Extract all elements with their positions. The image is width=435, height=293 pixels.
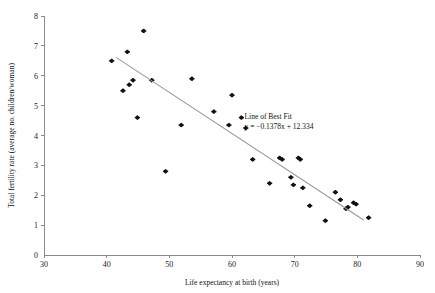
y-axis-tick-label: 5	[34, 102, 38, 111]
y-axis-tick-label: 3	[34, 161, 38, 170]
data-point	[141, 29, 146, 33]
axis-titles: Life expectancy at birth (years)Total fe…	[7, 63, 280, 287]
data-point	[179, 123, 184, 127]
data-point	[211, 110, 216, 114]
data-point-vbar	[302, 186, 304, 190]
data-point	[163, 169, 168, 173]
data-point-vbar	[355, 202, 357, 206]
data-point	[366, 216, 371, 220]
trendline-equation: y = −0.1378x + 12.334	[245, 122, 314, 131]
data-point-vbar	[309, 204, 311, 208]
x-axis-tick-label: 60	[228, 260, 236, 269]
data-point-vbar	[281, 157, 283, 161]
data-point-vbar	[111, 59, 113, 63]
data-point	[229, 93, 234, 97]
data-point-vbar	[213, 110, 215, 114]
data-point	[127, 83, 132, 87]
data-point-vbar	[180, 123, 182, 127]
data-point-vbar	[290, 175, 292, 179]
data-point-vbar	[293, 183, 295, 187]
x-axis-tick-label: 30	[40, 260, 48, 269]
data-point-vbar	[132, 78, 134, 82]
scatter-plot-figure: 12345678 030405060708090 Line of Best Fi…	[0, 0, 435, 293]
data-point	[307, 204, 312, 208]
data-point-vbar	[347, 205, 349, 209]
data-point	[135, 115, 140, 119]
data-point-vbar	[122, 89, 124, 93]
data-point-vbar	[165, 169, 167, 173]
data-point	[125, 50, 130, 54]
y-axis-tick-label: 7	[34, 42, 38, 51]
data-point	[338, 198, 343, 202]
chart-canvas: 12345678 030405060708090 Line of Best Fi…	[0, 0, 435, 293]
data-point-vbar	[340, 198, 342, 202]
x-axis-tick-label: 70	[291, 260, 299, 269]
data-point-vbar	[128, 83, 130, 87]
data-point	[226, 123, 231, 127]
data-point	[288, 175, 293, 179]
data-point-vbar	[231, 93, 233, 97]
line-of-best-fit	[116, 57, 364, 220]
data-point	[250, 157, 255, 161]
y-axis: 12345678	[34, 12, 44, 255]
trendline-label: Line of Best Fit	[245, 112, 293, 121]
y-axis-tick-label: 8	[34, 12, 38, 21]
data-point-vbar	[325, 219, 327, 223]
x-axis-tick-label: 50	[165, 260, 173, 269]
data-point	[239, 115, 244, 119]
data-point-vbar	[269, 181, 271, 185]
data-point	[300, 186, 305, 190]
data-point	[333, 190, 338, 194]
data-point-vbar	[127, 50, 129, 54]
y-axis-tick-label: 1	[34, 221, 38, 230]
data-point-vbar	[143, 29, 145, 33]
data-point-vbar	[228, 123, 230, 127]
x-axis-title: Life expectancy at birth (years)	[185, 278, 280, 287]
y-axis-tick-label: 2	[34, 191, 38, 200]
x-axis-tick-label: 40	[103, 260, 111, 269]
data-points-layer	[109, 29, 371, 223]
data-point-vbar	[368, 216, 370, 220]
data-point	[291, 183, 296, 187]
x-axis-tick-label: 80	[353, 260, 361, 269]
y-axis-origin-label: 0	[34, 251, 38, 260]
y-axis-title: Total fertility rate (average no. childr…	[7, 63, 16, 208]
data-point-vbar	[252, 157, 254, 161]
data-point-vbar	[335, 190, 337, 194]
y-axis-tick-label: 6	[34, 72, 38, 81]
data-point	[109, 59, 114, 63]
data-point	[120, 89, 125, 93]
y-axis-tick-label: 4	[34, 132, 38, 141]
data-point-vbar	[137, 115, 139, 119]
trendline-annotation: Line of Best Fity = −0.1378x + 12.334	[245, 112, 314, 131]
data-point	[323, 219, 328, 223]
data-point-vbar	[191, 77, 193, 81]
data-point	[130, 78, 135, 82]
data-point	[189, 77, 194, 81]
x-axis-tick-label: 90	[416, 260, 424, 269]
data-point	[267, 181, 272, 185]
data-point-vbar	[241, 115, 243, 119]
data-point-vbar	[300, 157, 302, 161]
trendline-layer	[116, 57, 364, 220]
x-axis: 030405060708090	[34, 251, 424, 269]
